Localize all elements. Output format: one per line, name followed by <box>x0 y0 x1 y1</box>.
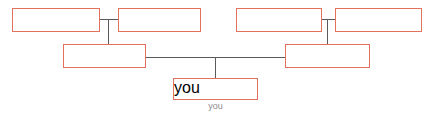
node-box-paternal-grandparent-2[interactable] <box>118 8 201 32</box>
connector-left-couple-bar <box>100 19 118 20</box>
node-box-parent-right[interactable] <box>285 44 370 68</box>
node-box-parent-left[interactable] <box>63 44 146 68</box>
node-box-maternal-grandparent-2[interactable] <box>335 8 422 32</box>
node-label-self: you <box>173 101 258 112</box>
family-tree-diagram: you you <box>0 0 435 116</box>
connector-left-couple-drop <box>108 19 109 44</box>
connector-self-drop <box>215 57 216 78</box>
connector-right-couple-bar <box>322 19 335 20</box>
node-box-maternal-grandparent-1[interactable] <box>236 8 322 32</box>
node-box-self[interactable]: you <box>173 78 258 100</box>
connector-right-couple-drop <box>327 19 328 44</box>
node-box-paternal-grandparent-1[interactable] <box>12 8 100 32</box>
